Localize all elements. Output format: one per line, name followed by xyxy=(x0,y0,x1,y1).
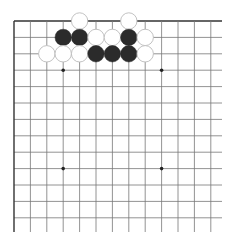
black-stone[interactable] xyxy=(71,29,87,45)
black-stone[interactable] xyxy=(88,46,104,62)
white-stone[interactable] xyxy=(104,29,120,45)
white-stone[interactable] xyxy=(55,46,71,62)
black-stone[interactable] xyxy=(104,46,120,62)
go-board[interactable] xyxy=(0,0,238,238)
stones-layer[interactable] xyxy=(39,13,154,62)
white-stone[interactable] xyxy=(71,13,87,29)
black-stone[interactable] xyxy=(121,29,137,45)
star-point xyxy=(160,68,164,72)
black-stone[interactable] xyxy=(121,46,137,62)
white-stone[interactable] xyxy=(39,46,55,62)
star-point xyxy=(61,167,65,171)
star-point xyxy=(61,68,65,72)
black-stone[interactable] xyxy=(55,29,71,45)
white-stone[interactable] xyxy=(121,13,137,29)
white-stone[interactable] xyxy=(71,46,87,62)
star-point xyxy=(160,167,164,171)
white-stone[interactable] xyxy=(88,29,104,45)
white-stone[interactable] xyxy=(137,46,153,62)
white-stone[interactable] xyxy=(137,29,153,45)
